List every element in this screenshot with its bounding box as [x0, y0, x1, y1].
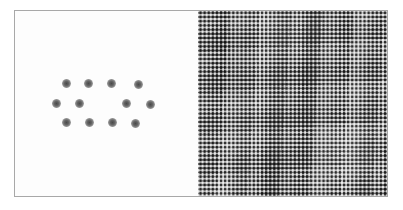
lattice-dot	[85, 118, 94, 127]
lattice-dot	[134, 80, 143, 89]
lattice-dot	[62, 118, 71, 127]
figure-root	[0, 0, 403, 210]
speckle-overlay	[198, 11, 387, 196]
dot-layer	[15, 11, 198, 196]
lattice-dot	[75, 99, 84, 108]
lattice-dot	[146, 100, 155, 109]
lattice-dot	[84, 79, 93, 88]
panel-reciprocal-space-moire	[198, 11, 387, 196]
composite-figure-frame	[14, 10, 388, 197]
lattice-dot	[131, 119, 140, 128]
lattice-dot	[108, 118, 117, 127]
lattice-dot	[122, 99, 131, 108]
lattice-dot	[107, 79, 116, 88]
lattice-dot	[52, 99, 61, 108]
panel-real-space-dot-lattice	[15, 11, 198, 196]
lattice-dot	[62, 79, 71, 88]
